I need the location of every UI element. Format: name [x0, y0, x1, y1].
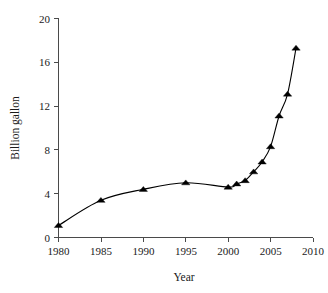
- line-chart: 0 4 8 12 16 20 1980 1985 1990 1995 2000 …: [0, 0, 328, 293]
- x-tick-label-1990: 1990: [132, 245, 155, 257]
- x-tick-label-1995: 1995: [175, 245, 198, 257]
- y-tick-label-16: 16: [39, 56, 51, 68]
- y-tick-label-8: 8: [45, 144, 51, 156]
- y-tick-label-4: 4: [45, 188, 51, 200]
- x-axis-title: Year: [173, 271, 194, 283]
- y-tick-label-0: 0: [45, 232, 51, 244]
- chart-figure: 0 4 8 12 16 20 1980 1985 1990 1995 2000 …: [0, 0, 328, 293]
- x-tick-label-2000: 2000: [217, 245, 240, 257]
- x-tick-label-1985: 1985: [90, 245, 113, 257]
- y-axis-title: Billion gallon: [9, 96, 22, 160]
- y-tick-label-12: 12: [39, 100, 50, 112]
- x-tick-label-2005: 2005: [260, 245, 283, 257]
- x-tick-label-1980: 1980: [48, 245, 71, 257]
- x-tick-label-2010: 2010: [302, 245, 325, 257]
- y-tick-label-20: 20: [39, 13, 51, 25]
